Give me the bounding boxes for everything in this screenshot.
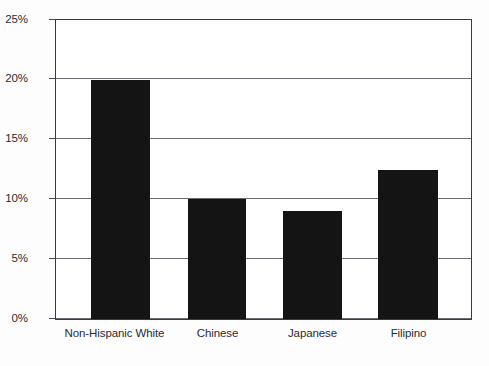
y-axis-label-3: 15%	[0, 133, 28, 145]
bar-2[interactable]	[283, 211, 342, 319]
y-axis-label-1: 5%	[0, 253, 28, 265]
y-axis-label-2: 10%	[0, 193, 28, 205]
y-tick-5	[49, 19, 56, 20]
y-axis-label-4: 20%	[0, 73, 28, 85]
y-tick-0	[49, 318, 56, 319]
bar-3[interactable]	[378, 170, 438, 320]
bar-chart: 0% 5% 10% 15% 20% 25% Non-Hispanic White…	[0, 0, 489, 366]
y-tick-3	[49, 138, 56, 139]
plot-area: 0% 5% 10% 15% 20% 25%	[55, 19, 472, 320]
y-axis-label-5: 25%	[0, 14, 28, 26]
bar-1[interactable]	[188, 199, 246, 319]
bar-0[interactable]	[91, 80, 150, 319]
y-tick-2	[49, 198, 56, 199]
y-axis-label-0: 0%	[0, 313, 28, 325]
y-tick-4	[49, 78, 56, 79]
x-axis-label-3: Filipino	[322, 328, 489, 340]
y-tick-1	[49, 258, 56, 259]
